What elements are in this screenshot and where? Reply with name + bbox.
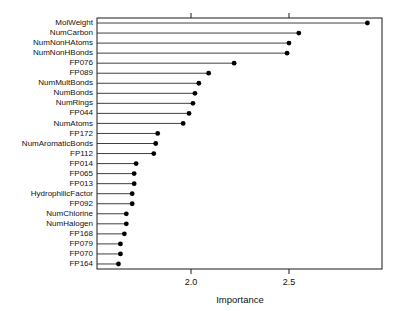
- data-point[interactable]: [130, 201, 135, 206]
- category-label: FP168: [69, 229, 93, 238]
- x-axis-title: Importance: [216, 294, 264, 305]
- category-label: FP089: [69, 68, 93, 77]
- data-point[interactable]: [124, 211, 129, 216]
- x-axis-ticks: 2.02.5: [185, 13, 296, 287]
- importance-dotplot: MolWeightNumCarbonNumNonHAtomsNumNonHBon…: [0, 0, 402, 311]
- category-label: FP070: [69, 249, 93, 258]
- data-point[interactable]: [132, 181, 137, 186]
- x-tick-label-0: 2.0: [185, 277, 198, 287]
- stem-lines-group: [97, 23, 367, 264]
- data-point[interactable]: [118, 252, 123, 257]
- data-point[interactable]: [130, 191, 135, 196]
- chart-canvas: MolWeightNumCarbonNumNonHAtomsNumNonHBon…: [0, 0, 402, 311]
- category-label: NumAtoms: [53, 119, 93, 128]
- data-point[interactable]: [285, 51, 290, 56]
- data-point[interactable]: [191, 101, 196, 106]
- category-label: MolWeight: [55, 18, 93, 27]
- data-point[interactable]: [116, 262, 121, 267]
- data-point[interactable]: [132, 171, 137, 176]
- category-label: NumAromaticBonds: [22, 139, 93, 148]
- data-point[interactable]: [296, 31, 301, 36]
- category-label: NumNonHBonds: [33, 48, 93, 57]
- category-label: FP076: [69, 58, 93, 67]
- category-axis-labels: MolWeightNumCarbonNumNonHAtomsNumNonHBon…: [22, 18, 94, 268]
- data-point[interactable]: [187, 111, 192, 116]
- category-label: NumBonds: [53, 88, 93, 97]
- category-label: FP065: [69, 169, 93, 178]
- category-label: NumHalogen: [46, 219, 93, 228]
- data-point[interactable]: [134, 161, 139, 166]
- data-point[interactable]: [196, 81, 201, 86]
- category-label: NumCarbon: [50, 28, 93, 37]
- data-point[interactable]: [365, 21, 370, 26]
- category-label: FP013: [69, 179, 93, 188]
- data-points-group: [116, 21, 370, 267]
- data-point[interactable]: [193, 91, 198, 96]
- data-point[interactable]: [151, 151, 156, 156]
- category-label: FP164: [69, 259, 93, 268]
- category-label: NumChlorine: [46, 209, 93, 218]
- category-label: NumRings: [56, 98, 93, 107]
- data-point[interactable]: [232, 61, 237, 66]
- category-label: FP172: [69, 129, 93, 138]
- data-point[interactable]: [155, 131, 160, 136]
- category-label: FP092: [69, 199, 93, 208]
- category-label: FP014: [69, 159, 93, 168]
- data-point[interactable]: [124, 221, 129, 226]
- category-label: FP112: [70, 149, 94, 158]
- data-point[interactable]: [181, 121, 186, 126]
- category-label: FP079: [69, 239, 93, 248]
- data-point[interactable]: [153, 141, 158, 146]
- category-label: HydrophilicFactor: [31, 189, 94, 198]
- category-label: FP044: [69, 108, 93, 117]
- data-point[interactable]: [118, 242, 123, 247]
- data-point[interactable]: [287, 41, 292, 46]
- category-label: NumMultBonds: [38, 78, 93, 87]
- data-point[interactable]: [206, 71, 211, 76]
- x-tick-label-1: 2.5: [283, 277, 296, 287]
- category-label: NumNonHAtoms: [33, 38, 93, 47]
- data-point[interactable]: [122, 231, 127, 236]
